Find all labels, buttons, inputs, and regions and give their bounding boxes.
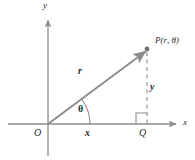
point-q-label: Q	[139, 128, 146, 138]
point-p-label: P(r, θ)	[155, 36, 179, 45]
origin-label: O	[34, 128, 41, 138]
point-p-dot	[145, 47, 150, 52]
y-axis-label: y	[43, 1, 47, 10]
right-angle-marker	[136, 113, 147, 124]
point-p-suffix: )	[176, 35, 179, 45]
point-p-prefix: P(	[155, 35, 164, 45]
radius-vector	[48, 52, 146, 125]
leg-x-label: x	[85, 128, 90, 138]
radius-label: r	[78, 66, 82, 76]
polar-coordinates-figure: y x O Q r θ x y P(r, θ)	[0, 0, 195, 160]
angle-theta-label: θ	[78, 104, 83, 114]
figure-canvas	[0, 0, 195, 160]
leg-y-label: y	[150, 82, 154, 92]
x-axis-label: x	[183, 118, 187, 127]
